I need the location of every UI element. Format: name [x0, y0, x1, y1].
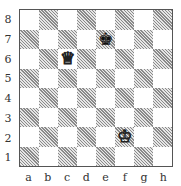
- square-a1: [20, 147, 39, 167]
- square-a6: [20, 49, 39, 69]
- square-c6: ♕: [58, 49, 77, 69]
- square-d6: [77, 49, 96, 69]
- square-c8: [58, 10, 77, 30]
- square-a2: [20, 127, 39, 147]
- square-c1: [58, 147, 77, 167]
- square-a8: [20, 10, 39, 30]
- square-g3: [134, 108, 153, 128]
- square-a7: [20, 30, 39, 50]
- square-g8: [134, 10, 153, 30]
- square-h1: [153, 147, 172, 167]
- rank-label: 8: [3, 14, 13, 25]
- file-label: b: [38, 172, 57, 183]
- square-c7: [58, 30, 77, 50]
- square-d4: [77, 88, 96, 108]
- square-g7: [134, 30, 153, 50]
- square-f7: [115, 30, 134, 50]
- square-h4: [153, 88, 172, 108]
- square-a4: [20, 88, 39, 108]
- square-b5: [39, 69, 58, 89]
- rank-label: 2: [3, 133, 13, 144]
- file-label: g: [135, 172, 154, 183]
- square-e8: [96, 10, 115, 30]
- square-d8: [77, 10, 96, 30]
- square-e5: [96, 69, 115, 89]
- square-g1: [134, 147, 153, 167]
- square-e2: [96, 127, 115, 147]
- square-e7: ♚: [96, 30, 115, 50]
- file-label: a: [19, 172, 38, 183]
- square-b7: [39, 30, 58, 50]
- white-king-icon: ♔: [117, 128, 132, 145]
- square-h8: [153, 10, 172, 30]
- file-label: d: [77, 172, 96, 183]
- rank-label: 4: [3, 93, 13, 104]
- square-d1: [77, 147, 96, 167]
- square-d5: [77, 69, 96, 89]
- square-h6: [153, 49, 172, 69]
- file-label: h: [154, 172, 173, 183]
- square-c2: [58, 127, 77, 147]
- square-h5: [153, 69, 172, 89]
- file-label: f: [115, 172, 134, 183]
- black-king-icon: ♚: [98, 31, 113, 48]
- square-c5: [58, 69, 77, 89]
- square-f1: [115, 147, 134, 167]
- square-f2: ♔: [115, 127, 134, 147]
- square-g6: [134, 49, 153, 69]
- square-b3: [39, 108, 58, 128]
- square-d7: [77, 30, 96, 50]
- square-b8: [39, 10, 58, 30]
- square-a5: [20, 69, 39, 89]
- rank-label: 1: [3, 152, 13, 163]
- file-label: c: [58, 172, 77, 183]
- square-f4: [115, 88, 134, 108]
- file-label: e: [96, 172, 115, 183]
- square-d2: [77, 127, 96, 147]
- square-g2: [134, 127, 153, 147]
- square-b1: [39, 147, 58, 167]
- square-g4: [134, 88, 153, 108]
- square-g5: [134, 69, 153, 89]
- square-h7: [153, 30, 172, 50]
- square-e1: [96, 147, 115, 167]
- square-e4: [96, 88, 115, 108]
- square-f5: [115, 69, 134, 89]
- square-c4: [58, 88, 77, 108]
- square-h3: [153, 108, 172, 128]
- square-f8: [115, 10, 134, 30]
- square-b2: [39, 127, 58, 147]
- square-f3: [115, 108, 134, 128]
- square-b6: [39, 49, 58, 69]
- square-f6: [115, 49, 134, 69]
- square-d3: [77, 108, 96, 128]
- rank-label: 3: [3, 113, 13, 124]
- square-c3: [58, 108, 77, 128]
- white-queen-icon: ♕: [60, 50, 75, 67]
- square-b4: [39, 88, 58, 108]
- rank-label: 7: [3, 34, 13, 45]
- rank-label: 5: [3, 73, 13, 84]
- square-e6: [96, 49, 115, 69]
- square-a3: [20, 108, 39, 128]
- chess-board: ♚♕♔: [19, 9, 173, 167]
- square-h2: [153, 127, 172, 147]
- square-e3: [96, 108, 115, 128]
- rank-label: 6: [3, 54, 13, 65]
